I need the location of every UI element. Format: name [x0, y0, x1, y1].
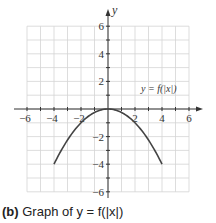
- y-axis-arrow-icon: [106, 9, 111, 16]
- y-tick-label: −4: [92, 158, 104, 170]
- x-tick-label: 6: [186, 112, 192, 124]
- x-tick-label: −2: [73, 112, 85, 124]
- graph: −6−4−2246642−2−4−6yy = f(|x|): [0, 0, 216, 223]
- caption-label: (b): [2, 204, 19, 219]
- y-axis-label: y: [111, 3, 118, 17]
- y-tick-label: 4: [99, 48, 105, 60]
- y-tick-label: 6: [99, 20, 105, 32]
- y-tick-label: −6: [92, 186, 104, 198]
- y-tick-label: 2: [99, 75, 105, 87]
- x-tick-label: 4: [159, 112, 165, 124]
- curve-annotation: y = f(|x|): [140, 83, 177, 95]
- x-tick-label: −4: [46, 112, 58, 124]
- x-tick-label: −6: [19, 112, 31, 124]
- y-tick-label: −2: [92, 131, 104, 143]
- x-axis-arrow-icon: [196, 107, 203, 112]
- figure-caption: (b) Graph of y = f(|x|): [2, 204, 123, 219]
- caption-text: Graph of y = f(|x|): [22, 204, 123, 219]
